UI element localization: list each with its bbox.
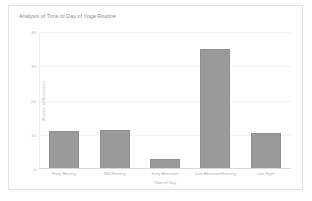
plot-area: 40 30 20 10 0	[39, 32, 291, 169]
bar-series	[39, 32, 291, 169]
x-tick-label: Early Morning	[39, 171, 89, 176]
bar[interactable]	[200, 49, 230, 169]
y-tick-label-30: 30	[31, 64, 36, 69]
bar[interactable]	[100, 130, 130, 169]
bar-slot	[140, 32, 190, 169]
x-tick-label: Mid Morning	[89, 171, 139, 176]
y-tick-label-20: 20	[31, 98, 36, 103]
y-tick-label-40: 40	[31, 30, 36, 35]
bar-slot	[39, 32, 89, 169]
x-axis-title: Time of Day	[39, 180, 291, 185]
bar[interactable]	[251, 133, 281, 169]
bar-slot	[89, 32, 139, 169]
chart-card: Analysis of Time of Day of Yoga Routine …	[8, 5, 303, 190]
x-axis-line	[39, 168, 291, 169]
x-tick-label: Late Afternoon/Evening	[190, 171, 240, 176]
x-tick-labels: Early Morning Mid Morning Early Afternoo…	[39, 171, 291, 176]
y-tick-label-0: 0	[34, 167, 36, 172]
bar-slot	[190, 32, 240, 169]
bar-slot	[241, 32, 291, 169]
chart-title: Analysis of Time of Day of Yoga Routine	[19, 13, 116, 19]
bar[interactable]	[49, 131, 79, 169]
y-tick-label-10: 10	[31, 132, 36, 137]
x-tick-label: Early Afternoon	[140, 171, 190, 176]
x-tick-label: Late Night	[241, 171, 291, 176]
